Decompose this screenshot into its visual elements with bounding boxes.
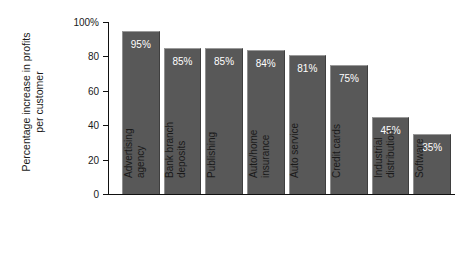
x-axis-label-line: Advertising xyxy=(123,129,135,178)
x-axis-label-line: Software xyxy=(414,139,426,178)
x-axis-label-line: deposits xyxy=(176,122,188,178)
y-tick-label: 80 xyxy=(88,51,99,62)
y-tick-mark xyxy=(103,91,109,92)
x-axis-label-line: Credit cards xyxy=(331,124,343,178)
bar-value-label: 84% xyxy=(248,58,284,69)
y-tick-label: 100% xyxy=(73,17,99,28)
x-axis-line xyxy=(108,194,455,195)
x-axis-label-line: Auto service xyxy=(289,123,301,178)
bar-value-label: 81% xyxy=(290,63,326,74)
y-tick-label: 40 xyxy=(88,120,99,131)
y-tick-mark xyxy=(103,160,109,161)
x-axis-label-line: insurance xyxy=(260,130,272,178)
x-axis-label: Auto/homeinsurance xyxy=(248,130,284,178)
x-axis-label: Advertisingagency xyxy=(123,129,159,178)
bar-value-label: 95% xyxy=(123,39,159,50)
y-axis-line xyxy=(108,22,109,194)
y-tick-label: 20 xyxy=(88,154,99,165)
bar-value-label: 75% xyxy=(331,73,367,84)
x-axis-label-line: Auto/home xyxy=(248,130,260,178)
x-axis-label: Auto service xyxy=(289,123,325,178)
y-tick-label: 60 xyxy=(88,85,99,96)
y-axis-title: Percentage increase in profits per custo… xyxy=(15,7,51,197)
y-tick-label: 0 xyxy=(93,189,99,200)
bar-value-label: 85% xyxy=(165,56,201,67)
y-tick-mark xyxy=(103,125,109,126)
bar-chart: Percentage increase in profits per custo… xyxy=(0,0,475,279)
y-axis-title-line-1: Percentage increase in profits xyxy=(20,33,33,172)
x-axis-label-line: Publishing xyxy=(206,132,218,178)
y-tick-mark xyxy=(103,22,109,23)
x-axis-label-line: agency xyxy=(135,129,147,178)
x-axis-label: Publishing xyxy=(206,132,242,178)
x-axis-label-line: distribution xyxy=(385,130,397,178)
x-axis-label: Software xyxy=(414,139,450,178)
x-axis-label-line: Industrial xyxy=(373,130,385,178)
x-axis-label-line: Bank branch xyxy=(164,122,176,178)
x-axis-label: Bank branchdeposits xyxy=(164,122,200,178)
x-axis-label: Credit cards xyxy=(331,124,367,178)
y-axis-title-line-2: per customer xyxy=(33,71,46,132)
x-axis-label: Industrialdistribution xyxy=(373,130,409,178)
y-tick-mark xyxy=(103,56,109,57)
y-tick-mark xyxy=(103,194,109,195)
bar-value-label: 85% xyxy=(206,56,242,67)
